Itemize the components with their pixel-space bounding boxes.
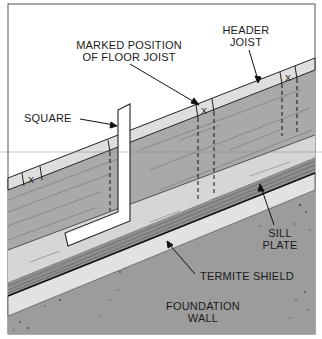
x-mark-2: X [201, 106, 207, 116]
label-header-joist-line2: JOIST [216, 36, 276, 48]
label-marked-position-line1: MARKED POSITION [70, 39, 188, 51]
label-sill-plate: SILL PLATE [262, 227, 298, 251]
label-sill-plate-line1: SILL [262, 227, 298, 239]
label-marked-position: MARKED POSITION OF FLOOR JOIST [70, 39, 188, 63]
x-mark-3: X [285, 73, 291, 83]
label-foundation-wall-line1: FOUNDATION [158, 300, 248, 312]
label-header-joist: HEADER JOIST [216, 24, 276, 48]
diagram-canvas: X X X HEADER JOIST MARKED POSITION OF FL… [0, 0, 322, 339]
label-sill-plate-line2: PLATE [262, 239, 298, 251]
x-mark-1: X [28, 175, 34, 185]
label-header-joist-line1: HEADER [216, 24, 276, 36]
label-square: SQUARE [24, 112, 72, 124]
label-foundation-wall: FOUNDATION WALL [158, 300, 248, 324]
label-foundation-wall-line2: WALL [158, 312, 248, 324]
label-termite-shield: TERMITE SHIELD [200, 270, 294, 282]
label-marked-position-line2: OF FLOOR JOIST [70, 51, 188, 63]
